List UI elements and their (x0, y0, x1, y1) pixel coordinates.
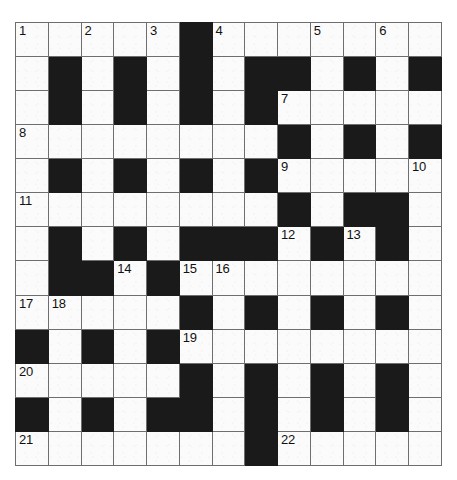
crossword-letter-cell[interactable] (245, 193, 278, 227)
crossword-letter-cell[interactable] (245, 23, 278, 57)
crossword-letter-cell[interactable] (376, 159, 409, 193)
crossword-letter-cell[interactable] (147, 431, 180, 465)
crossword-letter-cell[interactable] (409, 193, 442, 227)
crossword-letter-cell[interactable] (16, 57, 49, 91)
crossword-letter-cell[interactable] (147, 159, 180, 193)
crossword-letter-cell[interactable] (376, 91, 409, 125)
crossword-letter-cell[interactable] (81, 363, 114, 397)
crossword-letter-cell[interactable] (147, 57, 180, 91)
crossword-letter-cell[interactable] (310, 329, 343, 363)
crossword-letter-cell[interactable] (245, 329, 278, 363)
crossword-letter-cell[interactable] (310, 193, 343, 227)
crossword-letter-cell[interactable]: 22 (278, 431, 311, 465)
crossword-letter-cell[interactable]: 20 (16, 363, 49, 397)
crossword-letter-cell[interactable]: 9 (278, 159, 311, 193)
crossword-letter-cell[interactable] (212, 125, 245, 159)
crossword-letter-cell[interactable] (245, 261, 278, 295)
crossword-letter-cell[interactable] (48, 23, 81, 57)
crossword-letter-cell[interactable]: 12 (278, 227, 311, 261)
crossword-letter-cell[interactable]: 16 (212, 261, 245, 295)
crossword-letter-cell[interactable] (81, 193, 114, 227)
crossword-letter-cell[interactable] (278, 363, 311, 397)
crossword-letter-cell[interactable]: 15 (179, 261, 212, 295)
crossword-letter-cell[interactable]: 7 (278, 91, 311, 125)
crossword-letter-cell[interactable] (409, 363, 442, 397)
crossword-letter-cell[interactable] (212, 363, 245, 397)
crossword-letter-cell[interactable] (48, 125, 81, 159)
crossword-letter-cell[interactable]: 13 (343, 227, 376, 261)
crossword-letter-cell[interactable] (81, 431, 114, 465)
crossword-letter-cell[interactable]: 18 (48, 295, 81, 329)
crossword-letter-cell[interactable] (278, 329, 311, 363)
crossword-letter-cell[interactable] (212, 295, 245, 329)
crossword-letter-cell[interactable]: 11 (16, 193, 49, 227)
crossword-letter-cell[interactable] (409, 397, 442, 431)
crossword-letter-cell[interactable] (114, 125, 147, 159)
crossword-letter-cell[interactable] (376, 431, 409, 465)
crossword-letter-cell[interactable]: 1 (16, 23, 49, 57)
crossword-letter-cell[interactable]: 5 (310, 23, 343, 57)
crossword-letter-cell[interactable] (343, 363, 376, 397)
crossword-letter-cell[interactable] (212, 193, 245, 227)
crossword-letter-cell[interactable] (48, 431, 81, 465)
crossword-letter-cell[interactable] (114, 295, 147, 329)
crossword-letter-cell[interactable]: 2 (81, 23, 114, 57)
crossword-letter-cell[interactable] (409, 23, 442, 57)
crossword-letter-cell[interactable] (212, 431, 245, 465)
crossword-letter-cell[interactable] (343, 91, 376, 125)
crossword-letter-cell[interactable] (245, 125, 278, 159)
crossword-letter-cell[interactable] (409, 295, 442, 329)
crossword-letter-cell[interactable] (409, 227, 442, 261)
crossword-letter-cell[interactable] (343, 159, 376, 193)
crossword-letter-cell[interactable]: 4 (212, 23, 245, 57)
crossword-letter-cell[interactable]: 17 (16, 295, 49, 329)
crossword-letter-cell[interactable] (310, 261, 343, 295)
crossword-letter-cell[interactable] (48, 193, 81, 227)
crossword-letter-cell[interactable] (147, 295, 180, 329)
crossword-letter-cell[interactable] (114, 23, 147, 57)
crossword-letter-cell[interactable] (16, 159, 49, 193)
crossword-letter-cell[interactable]: 8 (16, 125, 49, 159)
crossword-letter-cell[interactable] (310, 431, 343, 465)
crossword-letter-cell[interactable] (409, 261, 442, 295)
crossword-letter-cell[interactable] (16, 261, 49, 295)
crossword-letter-cell[interactable] (81, 57, 114, 91)
crossword-letter-cell[interactable] (343, 431, 376, 465)
crossword-letter-cell[interactable] (278, 23, 311, 57)
crossword-letter-cell[interactable]: 3 (147, 23, 180, 57)
crossword-letter-cell[interactable] (114, 193, 147, 227)
crossword-letter-cell[interactable]: 6 (376, 23, 409, 57)
crossword-letter-cell[interactable] (376, 125, 409, 159)
crossword-letter-cell[interactable] (409, 91, 442, 125)
crossword-letter-cell[interactable] (147, 193, 180, 227)
crossword-letter-cell[interactable]: 21 (16, 431, 49, 465)
crossword-letter-cell[interactable] (48, 329, 81, 363)
crossword-letter-cell[interactable] (179, 125, 212, 159)
crossword-letter-cell[interactable] (278, 295, 311, 329)
crossword-letter-cell[interactable] (343, 329, 376, 363)
crossword-letter-cell[interactable] (81, 295, 114, 329)
crossword-letter-cell[interactable] (343, 397, 376, 431)
crossword-letter-cell[interactable] (343, 261, 376, 295)
crossword-letter-cell[interactable] (147, 91, 180, 125)
crossword-letter-cell[interactable] (212, 159, 245, 193)
crossword-letter-cell[interactable] (278, 397, 311, 431)
crossword-letter-cell[interactable] (16, 227, 49, 261)
crossword-letter-cell[interactable] (179, 431, 212, 465)
crossword-letter-cell[interactable]: 14 (114, 261, 147, 295)
crossword-letter-cell[interactable] (48, 363, 81, 397)
crossword-letter-cell[interactable] (409, 329, 442, 363)
crossword-letter-cell[interactable] (310, 125, 343, 159)
crossword-letter-cell[interactable] (212, 57, 245, 91)
crossword-letter-cell[interactable] (81, 227, 114, 261)
crossword-letter-cell[interactable] (376, 261, 409, 295)
crossword-letter-cell[interactable] (343, 23, 376, 57)
crossword-letter-cell[interactable] (343, 295, 376, 329)
crossword-letter-cell[interactable] (147, 227, 180, 261)
crossword-letter-cell[interactable]: 10 (409, 159, 442, 193)
crossword-letter-cell[interactable] (310, 57, 343, 91)
crossword-letter-cell[interactable] (147, 125, 180, 159)
crossword-letter-cell[interactable] (310, 91, 343, 125)
crossword-letter-cell[interactable] (212, 397, 245, 431)
crossword-letter-cell[interactable] (114, 397, 147, 431)
